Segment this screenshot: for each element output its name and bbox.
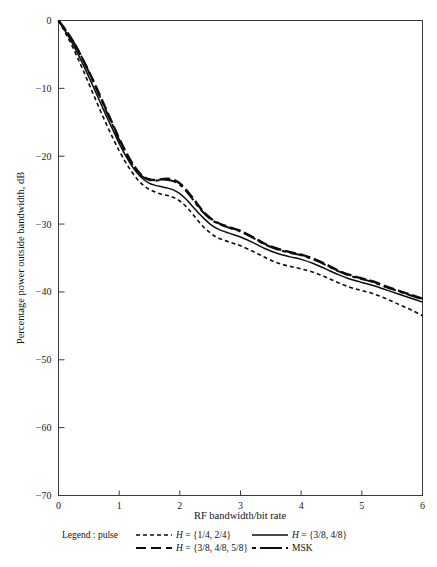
curve-solid bbox=[59, 21, 423, 303]
legend-label-0-rest: = {1/4, 2/4} bbox=[183, 530, 231, 540]
y-axis-ticks bbox=[59, 21, 65, 496]
x-tick-label: 0 bbox=[56, 500, 61, 511]
legend-label-0: H = {1/4, 2/4} bbox=[175, 530, 231, 540]
legend-label-3: MSK bbox=[292, 543, 313, 553]
x-tick-label: 4 bbox=[299, 500, 304, 511]
x-axis-tick-labels: 0123456 bbox=[56, 500, 425, 511]
x-tick-label: 6 bbox=[420, 500, 425, 511]
y-tick-label: 0 bbox=[47, 15, 52, 26]
x-axis-title: RF bandwidth/bit rate bbox=[194, 510, 286, 521]
curve-dash-dot bbox=[59, 21, 423, 300]
y-tick-label: −70 bbox=[36, 490, 52, 501]
legend-label-3-rest: MSK bbox=[292, 543, 313, 553]
curve-long-dash bbox=[59, 21, 423, 299]
legend: Legend : pulse H = {1/4, 2/4} H = {3/8, … bbox=[62, 530, 347, 553]
legend-label-2: H = {3/8, 4/8, 5/8} bbox=[175, 543, 248, 553]
x-tick-label: 3 bbox=[238, 500, 243, 511]
y-tick-label: −50 bbox=[36, 354, 52, 365]
legend-label-2-rest: = {3/8, 4/8, 5/8} bbox=[183, 543, 248, 553]
legend-label-1: H = {3/8, 4/8} bbox=[291, 530, 347, 540]
legend-prefix: Legend : pulse bbox=[62, 530, 118, 540]
x-tick-label: 5 bbox=[359, 500, 364, 511]
chart-canvas: 0123456 0−10−20−30−40−50−60−70 RF bandwi… bbox=[0, 0, 437, 567]
y-tick-label: −20 bbox=[36, 151, 52, 162]
y-tick-label: −60 bbox=[36, 422, 52, 433]
x-tick-label: 1 bbox=[117, 500, 122, 511]
plot-frame bbox=[59, 21, 423, 496]
data-curves bbox=[59, 21, 423, 316]
y-tick-label: −40 bbox=[36, 286, 52, 297]
y-axis-tick-labels: 0−10−20−30−40−50−60−70 bbox=[36, 15, 52, 501]
y-tick-label: −30 bbox=[36, 219, 52, 230]
legend-label-1-rest: = {3/8, 4/8} bbox=[299, 530, 347, 540]
x-axis-ticks bbox=[59, 491, 423, 496]
figure-container: 0123456 0−10−20−30−40−50−60−70 RF bandwi… bbox=[0, 0, 437, 567]
x-tick-label: 2 bbox=[177, 500, 182, 511]
y-tick-label: −10 bbox=[36, 83, 52, 94]
curve-short-dash bbox=[59, 21, 423, 316]
y-axis-title: Percentage power outside bandwidth, dB bbox=[15, 172, 26, 344]
